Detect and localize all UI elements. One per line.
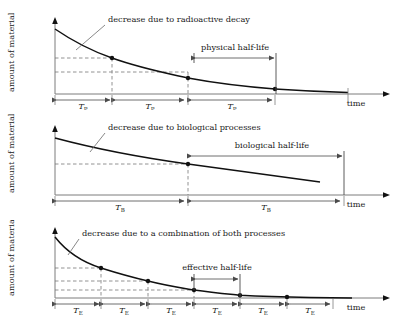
data-point-effective-2 [146,279,150,283]
span-label-biological: biological half-life [235,140,309,150]
interval-label-effective-6: TE [305,305,315,316]
interval-label-effective-4: TE [212,305,222,316]
data-point-physical-1 [110,56,114,60]
interval-label-physical-1: TP [78,101,87,110]
half-life-figure: amount of material time decrease due to … [0,0,401,334]
annotation-physical: decrease due to radioactive decay [108,14,250,24]
x-axis-label-physical: time [347,98,366,108]
interval-label-effective-5: TE [258,305,268,316]
interval-label-effective-3: TE [166,305,176,316]
y-axis-label-physical: amount of material [6,12,16,92]
interval-label-physical-3: TP [227,101,236,110]
data-point-effective-5 [285,295,289,299]
panel-effective: amount of material time decrease due to … [0,220,401,334]
x-axis-arrow-biological [383,192,390,198]
interval-label-effective-2: TE [119,305,129,316]
span-label-physical: physical half-life [201,42,269,52]
data-point-physical-3 [273,87,277,91]
annotation-effective: decrease due to a combination of both pr… [82,228,285,238]
interval-label-effective-1: TE [73,305,83,316]
leader-line-physical [76,25,105,50]
y-axis-arrow-physical [52,17,58,24]
y-axis-arrow-biological [52,125,58,132]
x-axis-label-effective: time [347,302,366,312]
span-label-effective: effective half-life [182,262,252,272]
panel-biological: amount of material time decrease due to … [0,110,401,220]
y-axis-label-biological: amount of material [6,113,16,193]
panel-physical: amount of material time decrease due to … [0,0,401,110]
y-axis-label-effective: amount of material [6,220,16,296]
interval-label-physical-2: TP [145,101,154,110]
x-axis-arrow-physical [383,91,390,97]
data-point-physical-2 [186,76,190,80]
x-axis-label-biological: time [347,199,366,209]
y-axis-arrow-effective [52,227,58,234]
interval-label-biological-1: TB [115,202,125,213]
data-point-effective-1 [99,266,103,270]
decay-curve-physical [55,29,348,93]
annotation-biological: decrease due to biological processes [108,122,261,132]
leader-line-effective [68,239,79,255]
x-axis-arrow-effective [383,295,390,301]
interval-label-biological-2: TB [261,202,271,213]
data-point-biological-1 [186,162,190,166]
